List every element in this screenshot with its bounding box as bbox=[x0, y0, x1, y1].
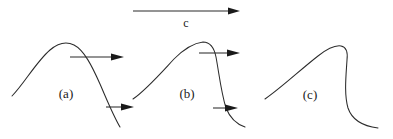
panel-b-label: (b) bbox=[179, 86, 194, 101]
figure-canvas: c (a) (b) (c) bbox=[0, 0, 393, 139]
speed-arrow-head bbox=[228, 8, 240, 15]
panel-a-trough-arrow-head bbox=[121, 103, 134, 110]
wave-breaking-figure: c (a) (b) (c) bbox=[0, 0, 393, 139]
panel-c-wave-curve bbox=[265, 46, 378, 128]
panel-a-label: (a) bbox=[59, 86, 73, 101]
panel-b-trough-arrow-head bbox=[225, 104, 238, 111]
speed-label: c bbox=[183, 16, 188, 30]
panel-a-crest-arrow-head bbox=[111, 53, 124, 60]
panel-c-group bbox=[265, 46, 378, 128]
panel-c-label: (c) bbox=[303, 87, 317, 102]
panel-b-crest-arrow-head bbox=[227, 49, 240, 56]
panel-b-group bbox=[133, 42, 245, 127]
propagation-speed-arrow: c bbox=[133, 8, 240, 30]
